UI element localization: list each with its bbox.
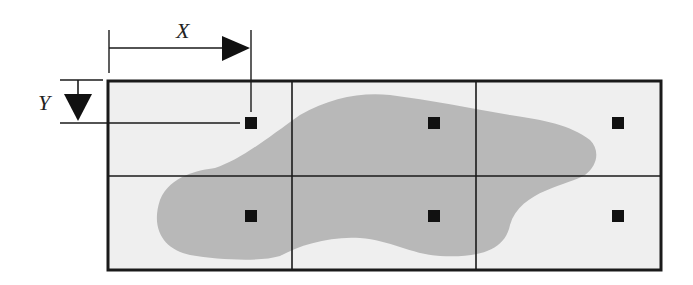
marker-r1-c1 <box>428 210 440 222</box>
y-arrow-icon <box>64 94 92 121</box>
marker-r0-c2 <box>612 117 624 129</box>
marker-r1-c0 <box>245 210 257 222</box>
x-label: X <box>175 18 191 43</box>
marker-r0-c0 <box>245 117 257 129</box>
grid-sampling-diagram: X Y <box>0 0 693 285</box>
marker-r0-c1 <box>428 117 440 129</box>
x-arrow-icon <box>222 36 250 61</box>
marker-r1-c2 <box>612 210 624 222</box>
y-label: Y <box>38 90 53 115</box>
